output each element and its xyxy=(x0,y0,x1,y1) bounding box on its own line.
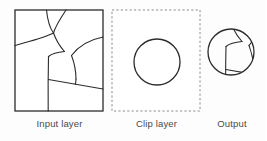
output-boundary-lines xyxy=(193,0,267,101)
clip-layer-panel xyxy=(112,10,200,111)
output-circle-outline xyxy=(208,29,254,75)
input-layer-panel xyxy=(15,10,103,111)
input-layer-label: Input layer xyxy=(15,118,104,130)
output-panel xyxy=(193,0,267,101)
output-clipped-lines xyxy=(193,0,267,101)
output-label: Output xyxy=(204,118,260,130)
clip-layer-label: Clip layer xyxy=(112,118,201,130)
clip-operation-diagram: Input layer Clip layer Output xyxy=(0,0,266,141)
input-layer-frame xyxy=(15,10,103,111)
clip-layer-frame xyxy=(112,10,200,111)
